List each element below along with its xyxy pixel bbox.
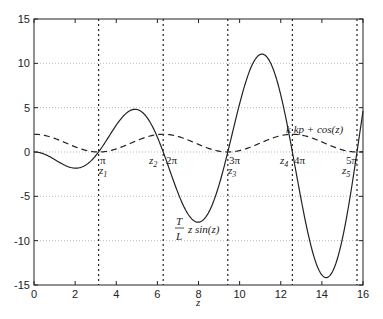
zsin-curve-label: T L z sin(z) <box>175 215 220 242</box>
svg-text:10: 10 <box>18 57 30 69</box>
svg-text:12: 12 <box>275 288 287 300</box>
svg-text:0: 0 <box>31 288 37 300</box>
svg-text:10: 10 <box>234 288 246 300</box>
root-z3: z3 <box>227 164 236 179</box>
svg-text:16: 16 <box>357 288 369 300</box>
svg-text:-5: -5 <box>20 190 30 202</box>
svg-text:-10: -10 <box>14 235 30 247</box>
two-pi-label: 2π <box>166 154 178 166</box>
svg-text:2: 2 <box>72 288 78 300</box>
svg-text:5: 5 <box>24 102 30 114</box>
axis-ticks: 0246810121416-15-10-5051015 <box>14 13 369 300</box>
svg-text:15: 15 <box>18 13 30 25</box>
svg-text:0: 0 <box>24 146 30 158</box>
root-z2: z2 <box>148 154 157 169</box>
svg-text:6: 6 <box>154 288 160 300</box>
svg-text:14: 14 <box>316 288 328 300</box>
four-pi-label: 4π <box>294 154 306 166</box>
root-z5: z5 <box>341 164 350 179</box>
curves <box>34 54 363 278</box>
svg-text:-15: -15 <box>14 279 30 291</box>
root-z1: z1 <box>98 164 107 179</box>
svg-text:4: 4 <box>113 288 119 300</box>
fraction-numerator: T <box>176 215 183 227</box>
fraction-rest: z sin(z) <box>187 223 220 236</box>
grid-lines <box>34 63 363 240</box>
five-pi-label: 5π <box>346 154 358 166</box>
chart: 0246810121416-15-10-5051015 z k kp + cos… <box>0 0 383 319</box>
x-axis-label: z <box>195 296 201 308</box>
fraction-denominator: L <box>175 230 182 242</box>
root-z4: z4 <box>279 154 288 169</box>
cos-curve-label: k kp + cos(z) <box>286 123 344 136</box>
